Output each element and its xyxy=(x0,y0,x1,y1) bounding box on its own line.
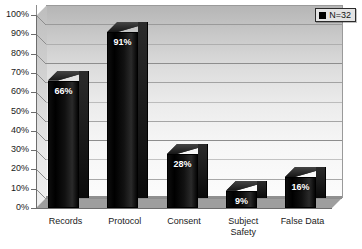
y-axis-tick-label: 10% xyxy=(0,184,29,193)
y-axis-tick-label: 20% xyxy=(0,164,29,173)
y-axis-tick xyxy=(31,169,36,170)
gridline-depth xyxy=(36,15,46,25)
y-axis-tick-label: 30% xyxy=(0,145,29,154)
x-axis-category-label: SubjectSafety xyxy=(214,216,273,238)
y-axis-tick xyxy=(31,54,36,55)
legend-label: N=32 xyxy=(329,10,351,20)
y-axis-tick xyxy=(31,34,36,35)
y-axis-upper-segment xyxy=(36,5,37,15)
x-axis-category-line: Consent xyxy=(154,216,213,227)
gridline-depth xyxy=(36,73,46,83)
y-axis-tick xyxy=(31,189,36,190)
y-axis-tick-label: 100% xyxy=(0,10,29,19)
gridline-depth xyxy=(36,92,46,102)
x-axis-category-line: False Data xyxy=(273,216,332,227)
bar: 9% xyxy=(226,181,267,208)
legend-swatch-icon xyxy=(319,12,326,19)
gridline-depth xyxy=(36,189,46,199)
y-axis-tick-label: 90% xyxy=(0,29,29,38)
y-axis-tick xyxy=(31,150,36,151)
plot-right-back-edge xyxy=(342,5,343,198)
bar-front-face xyxy=(107,32,138,208)
bar-side-face xyxy=(198,144,208,198)
gridline xyxy=(36,44,342,45)
x-axis-category-label: Records xyxy=(36,216,95,227)
gridline-depth xyxy=(36,54,46,64)
legend: N=32 xyxy=(315,8,356,22)
y-axis-tick-label: 60% xyxy=(0,87,29,96)
bar: 28% xyxy=(167,144,208,208)
x-axis xyxy=(36,208,332,209)
bar-value-label: 66% xyxy=(48,87,79,96)
y-axis-tick xyxy=(31,112,36,113)
x-axis-category-line: Records xyxy=(36,216,95,227)
x-axis-category-line: Safety xyxy=(214,227,273,238)
y-axis xyxy=(36,15,37,208)
gridline-depth xyxy=(36,169,46,179)
bar: 66% xyxy=(48,71,89,208)
bar-value-label: 28% xyxy=(167,160,198,169)
bar-side-face xyxy=(316,167,326,198)
y-axis-tick-label: 70% xyxy=(0,68,29,77)
bar-chart: 100%90%80%70%60%50%40%30%20%10%0% 66%91%… xyxy=(0,0,362,249)
x-axis-category-label: Consent xyxy=(154,216,213,227)
y-axis-tick-label: 80% xyxy=(0,49,29,58)
bar: 91% xyxy=(107,22,148,208)
bar: 16% xyxy=(285,167,326,208)
bar-side-face xyxy=(138,22,148,198)
bar-side-face xyxy=(79,71,89,198)
bar-value-label: 91% xyxy=(107,38,138,47)
y-axis-tick xyxy=(31,131,36,132)
gridline-depth xyxy=(36,34,46,44)
gridline-depth xyxy=(36,131,46,141)
x-axis-category-label: False Data xyxy=(273,216,332,227)
y-axis-tick xyxy=(31,15,36,16)
gridline xyxy=(36,63,342,64)
x-axis-category-line: Protocol xyxy=(95,216,154,227)
y-axis-tick-label: 40% xyxy=(0,126,29,135)
y-axis-tick xyxy=(31,73,36,74)
gridline xyxy=(36,24,342,25)
bar-front-face xyxy=(48,81,79,208)
y-axis-tick-label: 50% xyxy=(0,107,29,116)
x-axis-category-label: Protocol xyxy=(95,216,154,227)
bar-side-face xyxy=(257,181,267,198)
y-axis-tick xyxy=(31,92,36,93)
y-axis-tick xyxy=(31,208,36,209)
x-axis-category-line: Subject xyxy=(214,216,273,227)
gridline-depth xyxy=(36,150,46,160)
bar-value-label: 16% xyxy=(285,183,316,192)
gridline-depth xyxy=(36,112,46,122)
plot-top-edge xyxy=(46,5,342,6)
bar-value-label: 9% xyxy=(226,197,257,206)
y-axis-tick-label: 0% xyxy=(0,203,29,212)
